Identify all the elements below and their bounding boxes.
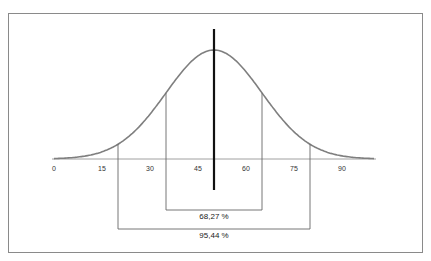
interval-label: 95,44 % (199, 231, 228, 240)
x-tick-label: 60 (242, 165, 250, 172)
x-tick-label: 15 (98, 165, 106, 172)
x-tick-label: 45 (194, 165, 202, 172)
normal-distribution-chart (0, 0, 431, 261)
interval-label: 68,27 % (199, 212, 228, 221)
x-tick-label: 75 (290, 165, 298, 172)
x-tick-label: 0 (52, 165, 56, 172)
x-tick-label: 90 (338, 165, 346, 172)
x-tick-label: 30 (146, 165, 154, 172)
